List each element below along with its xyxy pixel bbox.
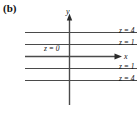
level-label-z4-bottom: z = 4 [119,75,134,83]
level-label-z1-bottom: z = 1 [119,63,134,71]
y-axis-label: y [66,7,70,16]
level-label-z4-top: z = 4 [119,27,134,35]
x-axis-label: x [124,52,128,61]
axes-group [0,0,140,114]
level-label-z1-top: z = 1 [119,39,134,47]
level-label-z0: z = 0 [44,45,59,53]
figure-panel-b: (b) y x z = 0 z = 4 z = 1 z = 1 z = 4 [0,0,140,114]
x-axis-arrowhead [115,54,123,60]
